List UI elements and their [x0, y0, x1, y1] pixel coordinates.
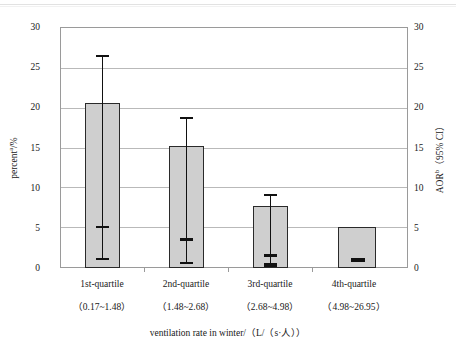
gridline-25 — [61, 68, 407, 69]
y-axis-left-tick-5: 5 — [35, 224, 40, 234]
bar-4th-quartile[interactable] — [338, 227, 376, 268]
x-axis-tick-1 — [144, 268, 145, 272]
y-axis-right-tick-5: 5 — [414, 224, 419, 234]
category-range-1: （0.17~1.48） — [54, 299, 150, 313]
error-bar-cap-upper-1st-quartile — [96, 55, 109, 57]
y-axis-right-title-text: AORb（95% CI） — [435, 121, 445, 194]
error-bar-cap-upper-3rd-quartile — [264, 194, 277, 196]
y-axis-left-tick-20: 20 — [31, 103, 41, 113]
chart-figure: 30 25 20 15 10 5 0 30 25 20 15 10 5 0 pe… — [0, 0, 456, 346]
y-axis-right-tick-25: 25 — [414, 63, 424, 73]
x-axis-tick-2 — [228, 268, 229, 272]
error-bar-line-2nd-quartile — [186, 118, 188, 263]
y-axis-right-tick-30: 30 — [414, 23, 424, 33]
y-axis-right-tick-0: 0 — [414, 264, 419, 274]
error-bar-cap-lower-2nd-quartile — [180, 262, 193, 264]
category-label-4: 4th-quartile — [306, 279, 402, 289]
error-bar-cap-upper-2nd-quartile — [180, 117, 193, 119]
y-axis-left-tick-0: 0 — [35, 264, 40, 274]
error-bar-cap-lower-1st-quartile — [96, 258, 109, 260]
category-range-4: （4.98~26.95） — [306, 299, 402, 313]
y-axis-right-title: AORb（95% CI） — [432, 112, 446, 202]
y-axis-left-title-superscript: a — [7, 148, 14, 151]
x-axis-title: ventilation rate in winter/（L/（s·人）） — [0, 325, 456, 339]
y-axis-right-title-superscript: b — [433, 170, 440, 173]
plot-area — [60, 27, 408, 268]
y-axis-right-tick-10: 10 — [414, 184, 424, 194]
scan-artifact-rule-top-secondary — [0, 6, 456, 7]
aor-point-marker-2nd-quartile — [180, 238, 193, 241]
category-range-3: （2.68~4.98） — [222, 299, 318, 313]
category-label-1: 1st-quartile — [54, 279, 150, 289]
y-axis-right-tick-15: 15 — [414, 144, 424, 154]
category-label-3: 3rd-quartile — [222, 279, 318, 289]
error-bar-line-1st-quartile — [102, 56, 104, 259]
x-axis-category-2nd-quartile: 2nd-quartile （1.48~2.68） — [138, 279, 234, 313]
y-axis-left-title-text: percenta/% — [9, 137, 19, 178]
y-axis-right-tick-20: 20 — [414, 103, 424, 113]
aor-point-marker-4th-quartile — [351, 258, 365, 262]
category-range-2: （1.48~2.68） — [138, 299, 234, 313]
x-axis-category-4th-quartile: 4th-quartile （4.98~26.95） — [306, 279, 402, 313]
y-axis-left-title: percenta/% — [7, 123, 19, 193]
aor-point-marker-1st-quartile — [96, 226, 109, 229]
y-axis-left-tick-30: 30 — [31, 23, 41, 33]
error-bar-cap-lower-3rd-quartile — [264, 263, 277, 267]
scan-artifact-rule-top — [0, 4, 456, 5]
y-axis-left-tick-25: 25 — [31, 63, 41, 73]
aor-point-marker-3rd-quartile — [264, 254, 277, 257]
x-axis-tick-3 — [312, 268, 313, 272]
y-axis-left-tick-15: 15 — [31, 144, 41, 154]
category-label-2: 2nd-quartile — [138, 279, 234, 289]
x-axis-category-1st-quartile: 1st-quartile （0.17~1.48） — [54, 279, 150, 313]
x-axis-category-3rd-quartile: 3rd-quartile （2.68~4.98） — [222, 279, 318, 313]
y-axis-left-tick-10: 10 — [31, 184, 41, 194]
